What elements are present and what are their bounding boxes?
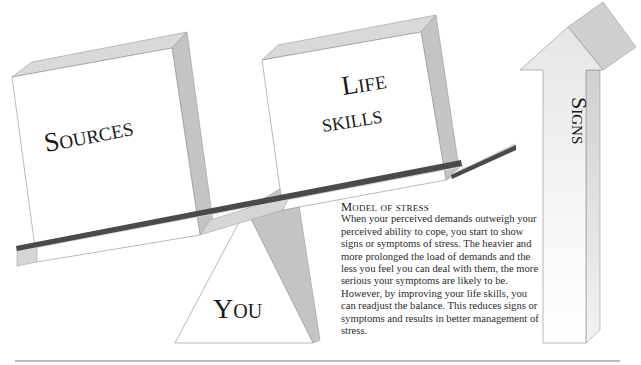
caption: Model of stress When your perceived dema… (341, 201, 541, 337)
model-of-stress-diagram: You Sources Life skills Signs (0, 0, 641, 365)
caption-title: Model of stress (341, 201, 541, 213)
caption-body: When your perceived demands outweigh you… (341, 213, 541, 337)
signs-label: Signs (567, 97, 592, 144)
fulcrum-label: You (213, 293, 263, 324)
